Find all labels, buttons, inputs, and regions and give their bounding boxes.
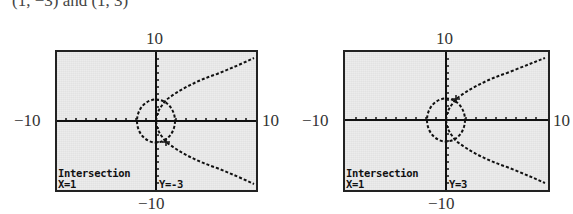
y-min-label: −10 [138,195,165,212]
intersection-label: Intersection [58,168,130,179]
y-max-label: 10 [146,30,163,47]
intersection-label: Intersection [346,168,418,179]
x-min-label: −10 [14,112,41,129]
y-max-label: 10 [436,30,453,47]
calculator-screen: Intersection X=1 Y=3 [343,50,550,192]
parabola-upper [446,58,545,120]
calculator-screen: Intersection X=1 Y=-3 [55,50,258,192]
parabola-lower [156,121,254,184]
y-readout: Y=-3 [159,179,183,190]
x-max-label: 10 [262,112,279,129]
x-readout: X=1 [58,179,76,190]
x-readout: X=1 [346,179,364,190]
caption-text: (1, −3) and (1, 3) [12,0,128,11]
y-readout: Y=3 [449,179,467,190]
parabola-lower [446,120,545,183]
x-max-label: 10 [553,112,570,129]
x-min-label: −10 [302,112,329,129]
parabola-upper [156,58,254,121]
y-min-label: −10 [428,195,455,212]
